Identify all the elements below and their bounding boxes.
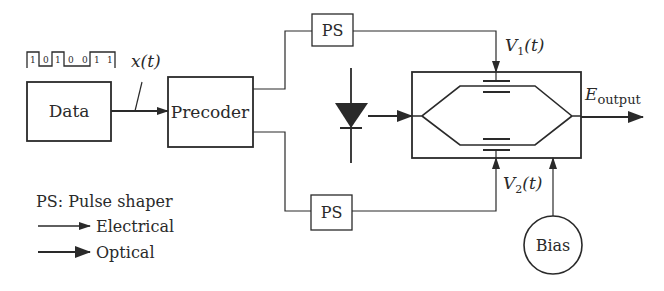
precoder-to-ps-bottom bbox=[253, 132, 311, 211]
data-label: Data bbox=[49, 101, 90, 121]
legend-ps-definition: PS: Pulse shaper bbox=[36, 192, 173, 211]
ps-bottom-label: PS bbox=[321, 203, 343, 222]
precoder-block: Precoder bbox=[168, 77, 253, 147]
data-block: Data bbox=[27, 82, 111, 141]
bias-label: Bias bbox=[536, 236, 571, 255]
mzm-modulator bbox=[412, 72, 581, 158]
signal-pointer bbox=[135, 82, 142, 111]
ps-top-label: PS bbox=[322, 21, 344, 40]
bit-3: 0 bbox=[68, 55, 74, 65]
legend: PS: Pulse shaper Electrical Optical bbox=[36, 192, 174, 262]
legend-electrical-label: Electrical bbox=[96, 217, 174, 236]
transmitter-diagram: 1 0 1 0 0 1 1 x(t) Data Precoder PS PS V… bbox=[0, 0, 664, 291]
v1-label: V1(t) bbox=[505, 35, 544, 58]
pulse-shaper-top: PS bbox=[312, 14, 353, 46]
bit-6: 1 bbox=[107, 55, 113, 65]
precoder-to-ps-top bbox=[253, 31, 312, 89]
precoder-label: Precoder bbox=[171, 102, 250, 122]
laser-diode-icon bbox=[335, 68, 368, 163]
bit-waveform: 1 0 1 0 0 1 1 bbox=[27, 52, 115, 68]
bit-0: 1 bbox=[30, 55, 36, 65]
pulse-shaper-bottom: PS bbox=[311, 195, 352, 230]
bit-2: 1 bbox=[55, 55, 61, 65]
v2-drive-line bbox=[352, 158, 496, 211]
bias-source: Bias bbox=[524, 216, 582, 274]
v1-drive-line bbox=[353, 31, 496, 72]
v2-label: V2(t) bbox=[503, 173, 542, 196]
legend-optical-label: Optical bbox=[96, 243, 155, 262]
signal-label: x(t) bbox=[131, 51, 161, 71]
output-label: Eoutput bbox=[584, 84, 642, 107]
bit-4: 0 bbox=[82, 55, 88, 65]
bit-5: 1 bbox=[94, 55, 100, 65]
bit-1: 0 bbox=[43, 55, 49, 65]
